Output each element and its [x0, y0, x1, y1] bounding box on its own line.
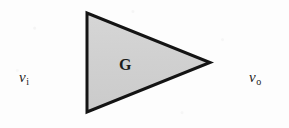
output-voltage-subscript: o [256, 76, 261, 87]
amplifier-block-diagram: vi vo G [0, 0, 289, 128]
diagram-canvas [0, 0, 289, 128]
amplifier-triangle [87, 13, 210, 112]
input-voltage-subscript: i [26, 76, 29, 87]
output-voltage-label: vo [249, 70, 261, 87]
input-voltage-label: vi [19, 70, 29, 87]
input-voltage-symbol: v [19, 69, 26, 85]
output-voltage-symbol: v [249, 69, 256, 85]
gain-label: G [119, 57, 132, 73]
